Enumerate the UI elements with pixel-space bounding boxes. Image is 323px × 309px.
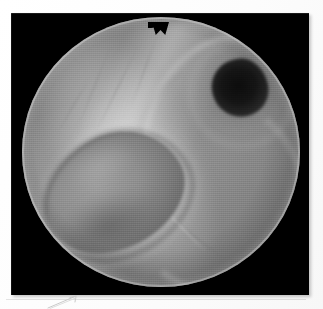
circular-field-of-view [22, 17, 300, 287]
endoscopic-photograph [11, 13, 309, 295]
frame-top-highlight [11, 13, 309, 14]
faint-horizontal-rule [6, 299, 306, 300]
page-root [0, 0, 323, 309]
frame-left-highlight [11, 13, 12, 295]
